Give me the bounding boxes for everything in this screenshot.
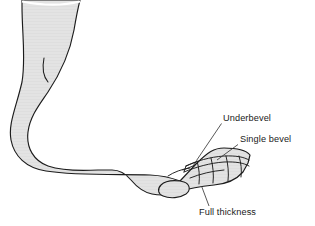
- big-toe-shape: [159, 181, 190, 198]
- label-underbevel: Underbevel: [223, 113, 271, 123]
- label-single-bevel: Single bevel: [240, 134, 291, 144]
- label-full-thickness: Full thickness: [199, 207, 256, 217]
- foot-bevel-diagram: Underbevel Single bevel Full thickness: [0, 0, 315, 226]
- leader-line-full-thickness: [202, 186, 210, 206]
- foot-outline-shape: [10, 0, 250, 195]
- big-toe: [159, 181, 190, 198]
- diagram-canvas: Underbevel Single bevel Full thickness: [0, 0, 315, 226]
- foot-body: [10, 0, 250, 195]
